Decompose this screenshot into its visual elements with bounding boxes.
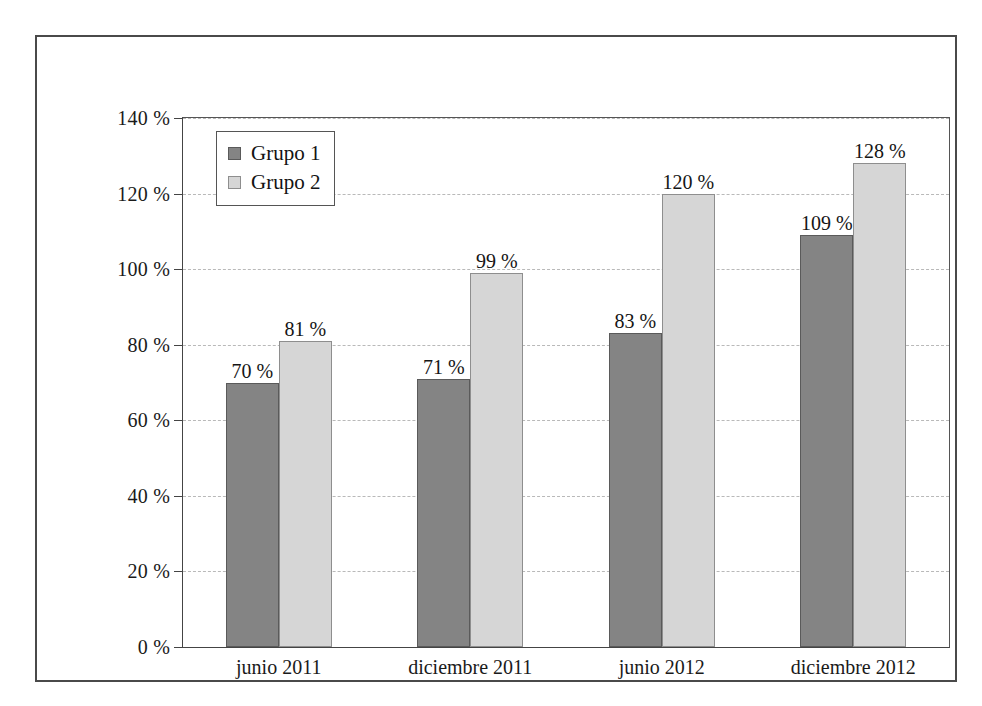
bar-grupo-1-0: 70 % bbox=[226, 383, 279, 648]
legend-swatch-grupo-2 bbox=[228, 176, 241, 189]
bar-value-label: 83 % bbox=[614, 311, 656, 331]
y-tick-0 bbox=[174, 647, 183, 648]
bar-value-label: 128 % bbox=[854, 141, 906, 161]
y-tick-label-120: 120 % bbox=[117, 182, 170, 205]
bar-value-label: 70 % bbox=[231, 361, 273, 381]
bar-grupo-2-1: 99 % bbox=[470, 273, 523, 647]
y-tick-60 bbox=[174, 420, 183, 421]
legend-label-grupo-1: Grupo 1 bbox=[251, 141, 320, 166]
y-tick-label-0: 0 % bbox=[138, 636, 170, 659]
bar-grupo-1-2: 83 % bbox=[609, 333, 662, 647]
bar-value-label: 99 % bbox=[476, 251, 518, 271]
gridline-140 bbox=[183, 118, 949, 119]
bar-grupo-2-0: 81 % bbox=[279, 341, 332, 647]
legend-swatch-grupo-1 bbox=[228, 147, 241, 160]
y-tick-80 bbox=[174, 345, 183, 346]
y-tick-label-40: 40 % bbox=[128, 484, 170, 507]
bar-grupo-1-3: 109 % bbox=[800, 235, 853, 647]
x-axis-label-1: diciembre 2011 bbox=[408, 656, 532, 679]
bar-value-label: 81 % bbox=[284, 319, 326, 339]
y-tick-label-100: 100 % bbox=[117, 258, 170, 281]
bar-grupo-2-2: 120 % bbox=[662, 194, 715, 647]
y-tick-label-140: 140 % bbox=[117, 107, 170, 130]
y-tick-40 bbox=[174, 496, 183, 497]
y-tick-label-60: 60 % bbox=[128, 409, 170, 432]
y-tick-20 bbox=[174, 571, 183, 572]
legend-entry-grupo-2: Grupo 2 bbox=[228, 168, 320, 197]
x-axis-label-3: diciembre 2012 bbox=[791, 656, 916, 679]
plot-area: 0 %20 %40 %60 %80 %100 %120 %140 % 70 %8… bbox=[182, 117, 950, 648]
bar-grupo-1-1: 71 % bbox=[417, 379, 470, 647]
y-tick-100 bbox=[174, 269, 183, 270]
legend-entry-grupo-1: Grupo 1 bbox=[228, 139, 320, 168]
y-tick-label-80: 80 % bbox=[128, 333, 170, 356]
y-tick-120 bbox=[174, 194, 183, 195]
y-tick-label-20: 20 % bbox=[128, 560, 170, 583]
x-axis-label-2: junio 2012 bbox=[619, 656, 705, 679]
bar-value-label: 120 % bbox=[662, 172, 714, 192]
legend-label-grupo-2: Grupo 2 bbox=[251, 170, 320, 195]
bar-value-label: 109 % bbox=[801, 213, 853, 233]
bar-grupo-2-3: 128 % bbox=[853, 163, 906, 647]
y-tick-140 bbox=[174, 118, 183, 119]
bar-value-label: 71 % bbox=[423, 357, 465, 377]
figure-frame: 0 %20 %40 %60 %80 %100 %120 %140 % 70 %8… bbox=[35, 35, 957, 682]
x-axis-label-0: junio 2011 bbox=[236, 656, 321, 679]
chart-legend: Grupo 1 Grupo 2 bbox=[216, 131, 335, 206]
